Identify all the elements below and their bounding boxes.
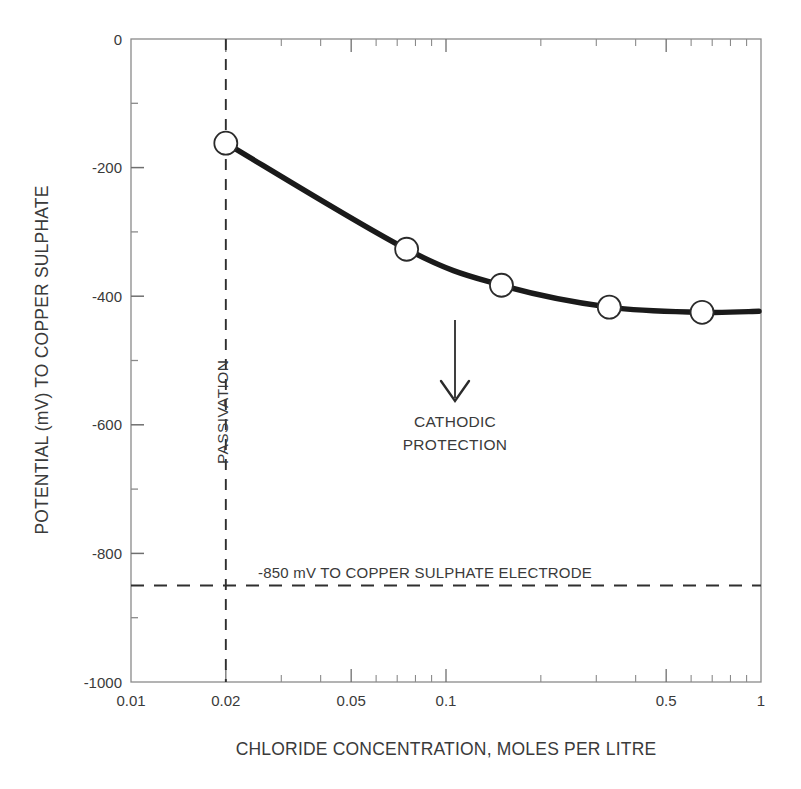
x-tick-label: 0.02 xyxy=(211,692,240,709)
y-tick-label: -600 xyxy=(92,416,122,433)
data-point-marker xyxy=(490,274,513,297)
cathodic-protection-line2: PROTECTION xyxy=(403,436,508,453)
y-axis-title: POTENTIAL (mV) TO COPPER SULPHATE xyxy=(32,185,52,534)
minus-850mv-label: -850 mV TO COPPER SULPHATE ELECTRODE xyxy=(258,564,592,581)
y-tick-label: -400 xyxy=(92,288,122,305)
x-tick-label: 0.5 xyxy=(656,692,677,709)
cathodic-protection-line1: CATHODIC xyxy=(414,413,496,430)
y-tick-label: -1000 xyxy=(84,674,122,691)
x-tick-label: 0.01 xyxy=(116,692,145,709)
data-point-marker xyxy=(691,301,714,324)
figure-background xyxy=(0,0,801,789)
x-tick-label: 0.05 xyxy=(337,692,366,709)
x-axis-title: CHLORIDE CONCENTRATION, MOLES PER LITRE xyxy=(236,739,657,759)
data-point-marker xyxy=(395,238,418,261)
y-tick-label: -800 xyxy=(92,545,122,562)
chart-figure: 0.010.020.050.10.51 0-200-400-600-800-10… xyxy=(0,0,801,789)
data-point-marker xyxy=(214,132,237,155)
y-tick-label: -200 xyxy=(92,159,122,176)
passivation-label: PASSIVATION xyxy=(214,360,231,464)
data-point-marker xyxy=(598,296,621,319)
chart-canvas: 0.010.020.050.10.51 0-200-400-600-800-10… xyxy=(0,0,801,789)
x-tick-label: 0.1 xyxy=(436,692,457,709)
x-tick-label: 1 xyxy=(757,692,765,709)
y-tick-label: 0 xyxy=(114,31,122,48)
x-axis-tick-labels: 0.010.020.050.10.51 xyxy=(116,692,765,709)
